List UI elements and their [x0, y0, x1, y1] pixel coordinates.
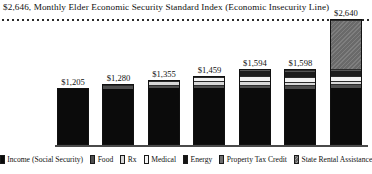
legend-swatch-icon: [183, 155, 188, 164]
legend-item[interactable]: Medical: [144, 155, 176, 164]
chart-legend: Income (Social Security)FoodRxMedicalEne…: [0, 155, 372, 164]
bar-segment-income[interactable]: [240, 88, 270, 144]
bar-segment-income[interactable]: [331, 88, 361, 144]
bar-group[interactable]: $1,280: [102, 84, 134, 145]
bar-stack[interactable]: $1,459: [193, 76, 225, 145]
bar-stack[interactable]: $1,205: [57, 88, 89, 145]
bar-stack[interactable]: $1,355: [148, 80, 180, 145]
legend-item[interactable]: Property Tax Credit: [219, 155, 287, 164]
legend-label: State Rental Assistance: [301, 155, 372, 164]
bar-stack[interactable]: $1,280: [102, 84, 134, 145]
bar-group[interactable]: $1,459: [193, 76, 225, 145]
legend-item[interactable]: Income (Social Security): [0, 155, 83, 164]
legend-item[interactable]: Energy: [183, 155, 212, 164]
bar-segment-income[interactable]: [103, 89, 133, 144]
bar-value-label: $1,594: [243, 58, 267, 68]
bar-value-label: $1,280: [107, 73, 131, 83]
bar-value-label: $1,598: [289, 58, 313, 68]
bar-group[interactable]: $2,640: [330, 19, 362, 145]
legend-item[interactable]: State Rental Assistance: [294, 155, 372, 164]
bar-stack[interactable]: $2,640: [330, 19, 362, 145]
bar-value-label: $1,205: [61, 77, 85, 87]
bar-value-label: $1,459: [198, 65, 222, 75]
legend-label: Income (Social Security): [7, 155, 83, 164]
x-axis-baseline: [55, 145, 368, 147]
legend-swatch-icon: [120, 155, 125, 164]
bar-group[interactable]: $1,355: [148, 80, 180, 145]
legend-swatch-icon: [90, 155, 95, 164]
legend-swatch-icon: [219, 155, 224, 164]
bar-group[interactable]: $1,594: [239, 69, 271, 145]
plot-area: $1,205$1,280$1,355$1,459$1,594$1,598$2,6…: [55, 19, 368, 145]
bar-group[interactable]: $1,205: [57, 88, 89, 145]
bar-segment-income[interactable]: [194, 88, 224, 144]
bar-segment-income[interactable]: [285, 89, 315, 144]
legend-item[interactable]: Food: [90, 155, 113, 164]
legend-label: Medical: [151, 155, 176, 164]
bar-segment-state-rental-assistance[interactable]: [331, 20, 361, 69]
legend-label: Property Tax Credit: [227, 155, 287, 164]
bar-segment-income[interactable]: [58, 89, 88, 144]
legend-label: Rx: [128, 155, 137, 164]
legend-swatch-icon: [294, 155, 299, 164]
chart-title: $2,646, Monthly Elder Economic Security …: [3, 2, 329, 13]
legend-swatch-icon: [0, 155, 5, 164]
bar-stack[interactable]: $1,594: [239, 69, 271, 145]
bar-stack[interactable]: $1,598: [284, 69, 316, 145]
bar-segment-income[interactable]: [149, 88, 179, 144]
legend-label: Energy: [191, 155, 213, 164]
legend-item[interactable]: Rx: [120, 155, 136, 164]
bar-value-label: $1,355: [152, 69, 176, 79]
legend-label: Food: [98, 155, 114, 164]
stacked-bar-chart: $2,646, Monthly Elder Economic Security …: [0, 0, 372, 174]
bar-group[interactable]: $1,598: [284, 69, 316, 145]
bar-value-label: $2,640: [334, 8, 358, 18]
legend-swatch-icon: [144, 155, 149, 164]
